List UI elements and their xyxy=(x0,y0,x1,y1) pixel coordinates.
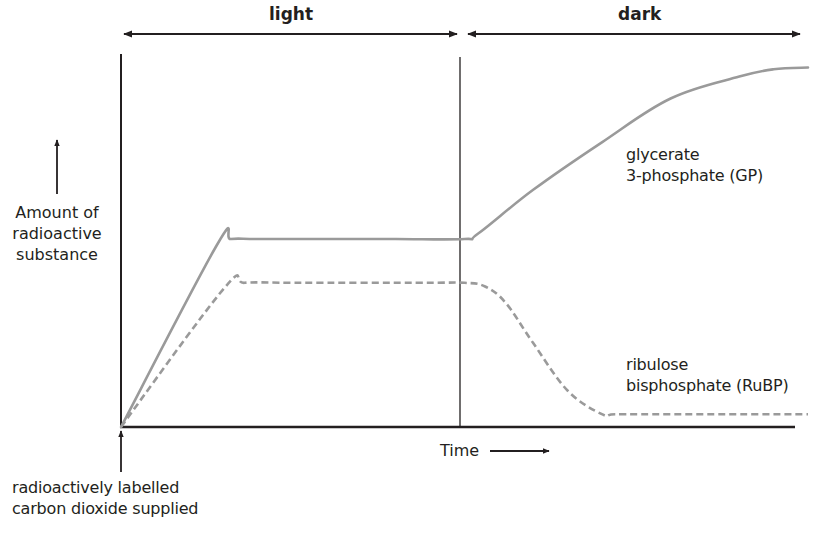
y-axis-label-line-1: Amount of xyxy=(4,202,110,223)
co2-annotation-line-2: carbon dioxide supplied xyxy=(12,498,198,519)
co2-annotation-line-1: radioactively labelled xyxy=(12,477,198,498)
gp-label-line-2: 3-phosphate (GP) xyxy=(626,165,763,186)
light-phase-label: light xyxy=(269,4,313,25)
dark-phase-label: dark xyxy=(618,4,661,25)
gp-label-line-1: glycerate xyxy=(626,144,763,165)
y-axis-label: Amount of radioactive substance xyxy=(4,202,110,265)
gp-label: glycerate 3-phosphate (GP) xyxy=(626,144,763,186)
x-axis-label: Time xyxy=(440,440,479,461)
rubp-curve xyxy=(121,275,808,427)
y-axis-label-line-3: substance xyxy=(4,244,110,265)
rubp-label-line-2: bisphosphate (RuBP) xyxy=(626,375,789,396)
y-axis-label-line-2: radioactive xyxy=(4,223,110,244)
rubp-label: ribulose bisphosphate (RuBP) xyxy=(626,354,789,396)
co2-supplied-annotation: radioactively labelled carbon dioxide su… xyxy=(12,477,198,519)
chart-canvas xyxy=(0,0,821,537)
rubp-label-line-1: ribulose xyxy=(626,354,789,375)
